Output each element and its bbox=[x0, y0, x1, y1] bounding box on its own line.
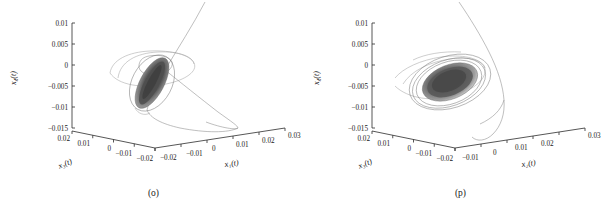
tick-label: 0 bbox=[212, 145, 216, 153]
tick-label: 0.005 bbox=[52, 41, 69, 49]
panel-caption-p: (p) bbox=[307, 188, 614, 198]
tick-label: 0 bbox=[107, 145, 111, 153]
plot-area-p: 0.01 0.005 0 −0.005 −0.01 −0.015 x₄(t) bbox=[307, 0, 614, 190]
tick-label: −0.02 bbox=[136, 155, 153, 163]
horizontal-axis-title: x₁(t) bbox=[223, 158, 240, 169]
plot-svg-o: 0.01 0.005 0 −0.005 −0.01 −0.015 x₄(t) bbox=[0, 0, 307, 190]
tick-label: 0 bbox=[407, 145, 411, 153]
tick-label: −0.02 bbox=[436, 155, 453, 163]
panel-p: 0.01 0.005 0 −0.005 −0.01 −0.015 x₄(t) bbox=[307, 0, 614, 221]
tick-label: 0.01 bbox=[55, 20, 68, 28]
tick-label: 0.03 bbox=[588, 132, 601, 140]
tick-label: −0.02 bbox=[160, 154, 177, 162]
tick-label: −0.01 bbox=[415, 150, 432, 158]
plot-svg-p: 0.01 0.005 0 −0.005 −0.01 −0.015 x₄(t) bbox=[307, 0, 614, 190]
plot-area-o: 0.01 0.005 0 −0.005 −0.01 −0.015 x₄(t) bbox=[0, 0, 307, 190]
horizontal-axis-o: −0.02 −0.01 0 0.01 0.02 0.03 x₁(t) bbox=[155, 128, 301, 169]
vertical-axis-title: x₄(t) bbox=[312, 71, 321, 86]
tick-label: −0.01 bbox=[51, 104, 68, 112]
tick-label: −0.015 bbox=[48, 125, 69, 133]
tick-label: 0.01 bbox=[236, 141, 249, 149]
tick-label: 0.02 bbox=[541, 140, 554, 148]
vertical-axis-o: 0.01 0.005 0 −0.005 −0.01 −0.015 x₄(t) bbox=[9, 20, 75, 133]
tick-label: 0.02 bbox=[357, 135, 370, 143]
tick-label: −0.005 bbox=[48, 83, 69, 91]
trajectory-group-o bbox=[110, 2, 238, 132]
tick-label: 0.02 bbox=[57, 135, 70, 143]
tick-label: 0.005 bbox=[352, 41, 369, 49]
tick-label: 0 bbox=[493, 149, 497, 157]
tick-label: 0.01 bbox=[355, 20, 368, 28]
tick-label: −0.01 bbox=[115, 150, 132, 158]
tick-label: 0 bbox=[64, 62, 68, 70]
figure-container: 0.01 0.005 0 −0.005 −0.01 −0.015 x₄(t) bbox=[0, 0, 614, 221]
tick-label: 0.02 bbox=[262, 137, 275, 145]
tick-label: 0 bbox=[364, 62, 368, 70]
tick-label: 0.01 bbox=[77, 140, 90, 148]
tick-label: −0.005 bbox=[348, 83, 369, 91]
vertical-axis-title: x₄(t) bbox=[9, 71, 18, 86]
depth-axis-title: x₃(t) bbox=[356, 157, 374, 171]
tick-label: 0.01 bbox=[377, 140, 390, 148]
tick-label: 0.01 bbox=[515, 144, 528, 152]
panel-o: 0.01 0.005 0 −0.005 −0.01 −0.015 x₄(t) bbox=[0, 0, 307, 221]
tick-label: −0.01 bbox=[351, 104, 368, 112]
vertical-axis-p: 0.01 0.005 0 −0.005 −0.01 −0.015 x₄(t) bbox=[312, 20, 375, 133]
panel-caption-o: (o) bbox=[0, 188, 307, 198]
horizontal-axis-title: x₂(t) bbox=[520, 158, 537, 169]
tick-label: −0.01 bbox=[186, 150, 203, 158]
depth-axis-o: 0.02 0.01 0 −0.01 −0.02 x₃(t) bbox=[56, 131, 155, 171]
trajectory-group-p bbox=[395, 2, 504, 140]
tick-label: −0.01 bbox=[462, 154, 479, 162]
tick-label: 0.03 bbox=[288, 132, 301, 140]
horizontal-axis-p: −0.01 0 0.01 0.02 0.03 x₂(t) bbox=[455, 128, 601, 169]
tick-label: −0.015 bbox=[348, 125, 369, 133]
depth-axis-title: x₃(t) bbox=[56, 157, 74, 171]
depth-axis-p: 0.02 0.01 0 −0.01 −0.02 x₃(t) bbox=[356, 131, 455, 171]
